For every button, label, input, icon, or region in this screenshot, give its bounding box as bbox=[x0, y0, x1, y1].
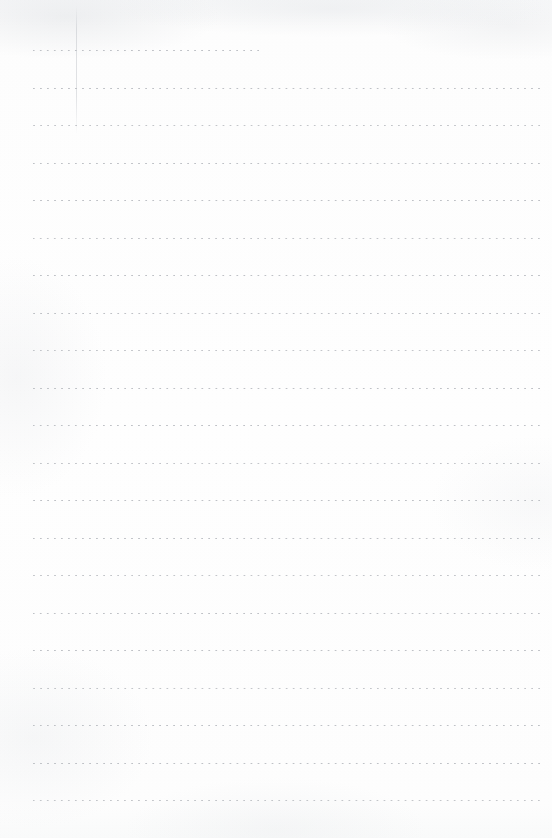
rule-line bbox=[33, 199, 542, 202]
rule-line bbox=[33, 387, 542, 390]
ruled-lines-layer bbox=[0, 0, 552, 838]
rule-line bbox=[33, 687, 542, 690]
rule-line bbox=[33, 499, 542, 502]
rule-line bbox=[33, 537, 542, 540]
rule-line bbox=[33, 612, 542, 615]
rule-line bbox=[33, 762, 542, 765]
rule-line bbox=[33, 274, 542, 277]
rule-line bbox=[33, 424, 542, 427]
rule-line bbox=[33, 49, 262, 52]
rule-line bbox=[33, 162, 542, 165]
rule-line bbox=[33, 649, 542, 652]
rule-line bbox=[33, 349, 542, 352]
scanned-page bbox=[0, 0, 552, 838]
rule-line bbox=[33, 87, 542, 90]
rule-line bbox=[33, 124, 542, 127]
rule-line bbox=[33, 312, 542, 315]
rule-line bbox=[33, 574, 542, 577]
rule-line bbox=[33, 799, 542, 802]
rule-line bbox=[33, 237, 542, 240]
rule-line bbox=[33, 724, 542, 727]
rule-line bbox=[33, 462, 542, 465]
